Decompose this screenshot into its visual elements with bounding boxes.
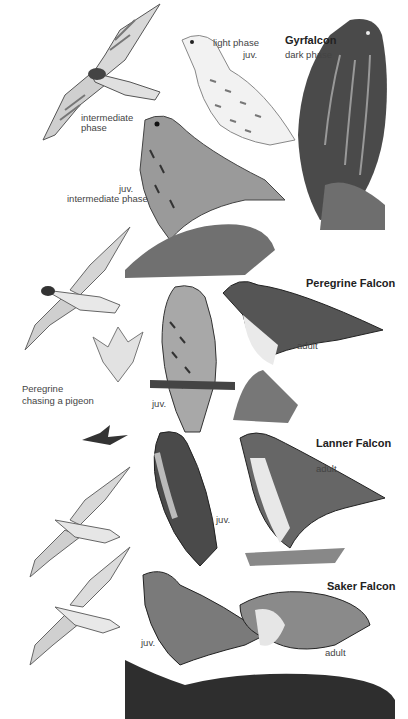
label-gyr-light-phase: light phase xyxy=(213,37,259,49)
label-gyr-light-juv: juv. xyxy=(243,49,257,61)
label-gyr-dark-phase: dark phase xyxy=(285,49,332,61)
label-saker-adult: adult xyxy=(325,647,346,659)
species-title-lanner: Lanner Falcon xyxy=(316,437,391,449)
label-saker-juv: juv. xyxy=(141,637,155,649)
species-title-saker: Saker Falcon xyxy=(327,580,395,592)
label-gyr-juv-intermediate: intermediate phase xyxy=(67,193,148,205)
small-flight-bird-illustration xyxy=(80,425,130,455)
label-peregrine-adult: adult xyxy=(297,340,318,352)
label-lanner-juv: juv. xyxy=(216,514,230,526)
label-peregrine-chasing-1: Peregrine xyxy=(22,383,63,395)
label-peregrine-juv: juv. xyxy=(152,398,166,410)
lanner-adult-illustration xyxy=(235,428,390,568)
species-title-gyrfalcon: Gyrfalcon xyxy=(285,34,336,46)
gyrfalcon-dark-illustration xyxy=(290,15,400,230)
label-gyr-flight-phase: phase xyxy=(81,122,107,134)
falcon-plate: intermediate phase light phase juv. Gyrf… xyxy=(0,0,408,719)
pigeon-illustration xyxy=(88,322,148,392)
lanner-juv-illustration xyxy=(145,428,225,568)
species-title-peregrine: Peregrine Falcon xyxy=(306,277,395,289)
label-peregrine-chasing-2: chasing a pigeon xyxy=(22,395,94,407)
saker-flight-illustration xyxy=(25,545,135,670)
label-lanner-adult: adult xyxy=(316,463,337,475)
gyrfalcon-juv-intermediate-illustration xyxy=(125,110,295,280)
